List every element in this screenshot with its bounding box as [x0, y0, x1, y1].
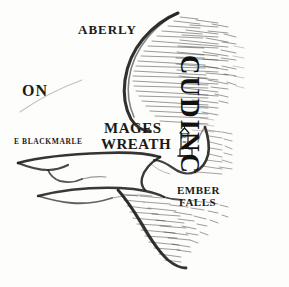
map-label-falls: FALLS: [179, 196, 216, 208]
map-canvas: ABERLY ON E BLACKMARLE MAGES WREATH EMBE…: [0, 0, 289, 287]
map-label-blackmarle: E BLACKMARLE: [14, 137, 83, 146]
map-label-wreath: WREATH: [101, 136, 171, 153]
map-label-on: ON: [22, 82, 48, 100]
map-label-aberly: ABERLY: [78, 22, 137, 38]
map-label-region-vertical: CUDINC: [174, 55, 205, 195]
map-label-mages: MAGES: [104, 120, 162, 137]
river-paths: [18, 153, 170, 204]
